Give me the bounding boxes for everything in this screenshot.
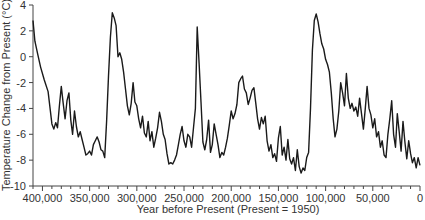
- y-tick-label: 2: [20, 25, 26, 37]
- y-axis-label: Temperature Change from Present (°C): [0, 0, 12, 191]
- y-tick-label: -2: [16, 77, 26, 89]
- y-axis: 420-2-4-6-8-10: [10, 0, 33, 192]
- y-tick-label: 4: [20, 0, 26, 11]
- y-tick-label: -6: [16, 128, 26, 140]
- temperature-line: [33, 13, 420, 173]
- y-tick-label: -8: [16, 154, 26, 166]
- x-tick-label: 350,000: [70, 192, 110, 204]
- x-tick-label: 400,000: [23, 192, 63, 204]
- y-tick-label: -10: [10, 180, 26, 192]
- x-tick-label: 0: [417, 192, 423, 204]
- y-tick-label: -4: [16, 102, 26, 114]
- x-axis: 400,000350,000300,000250,000200,000150,0…: [23, 186, 424, 204]
- x-tick-label: 50,000: [356, 192, 390, 204]
- x-axis-label: Year before Present (Present = 1950): [137, 203, 320, 215]
- y-tick-label: 0: [20, 51, 26, 63]
- temperature-chart: 420-2-4-6-8-10 400,000350,000300,000250,…: [0, 0, 425, 220]
